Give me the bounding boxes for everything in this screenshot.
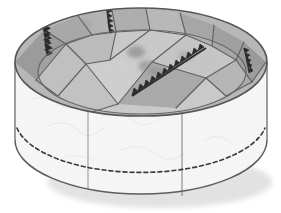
illustration-canvas — [0, 0, 281, 213]
stain-center-1 — [127, 46, 145, 58]
stain-upper-left — [78, 19, 92, 29]
circular-drum-illustration — [0, 0, 281, 213]
stain-right — [178, 51, 194, 61]
